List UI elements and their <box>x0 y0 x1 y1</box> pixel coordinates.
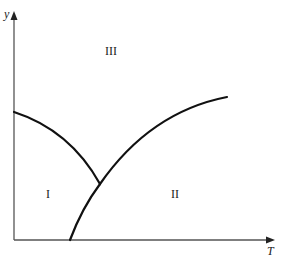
y-axis-label: y <box>3 7 10 21</box>
phase-diagram: y T III I II <box>0 0 282 261</box>
y-axis-arrow-icon <box>11 11 18 20</box>
region-label-iii: III <box>105 44 117 58</box>
t-axis-arrow-icon <box>266 237 275 244</box>
region-label-ii: II <box>171 187 179 201</box>
t-axis-label: T <box>267 244 275 258</box>
boundary-curve-i-ii <box>70 184 100 240</box>
region-label-i: I <box>46 187 50 201</box>
boundary-curve-i-iii <box>14 112 100 184</box>
boundary-curve-ii-iii <box>100 97 227 184</box>
